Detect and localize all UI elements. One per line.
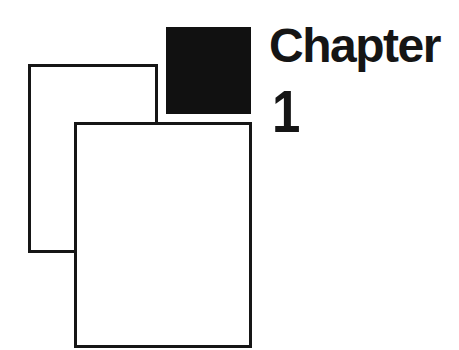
front-page-outline: [74, 122, 252, 348]
black-square-block: [166, 27, 251, 114]
chapter-label: Chapter: [269, 22, 440, 70]
chapter-number: 1: [272, 82, 300, 142]
